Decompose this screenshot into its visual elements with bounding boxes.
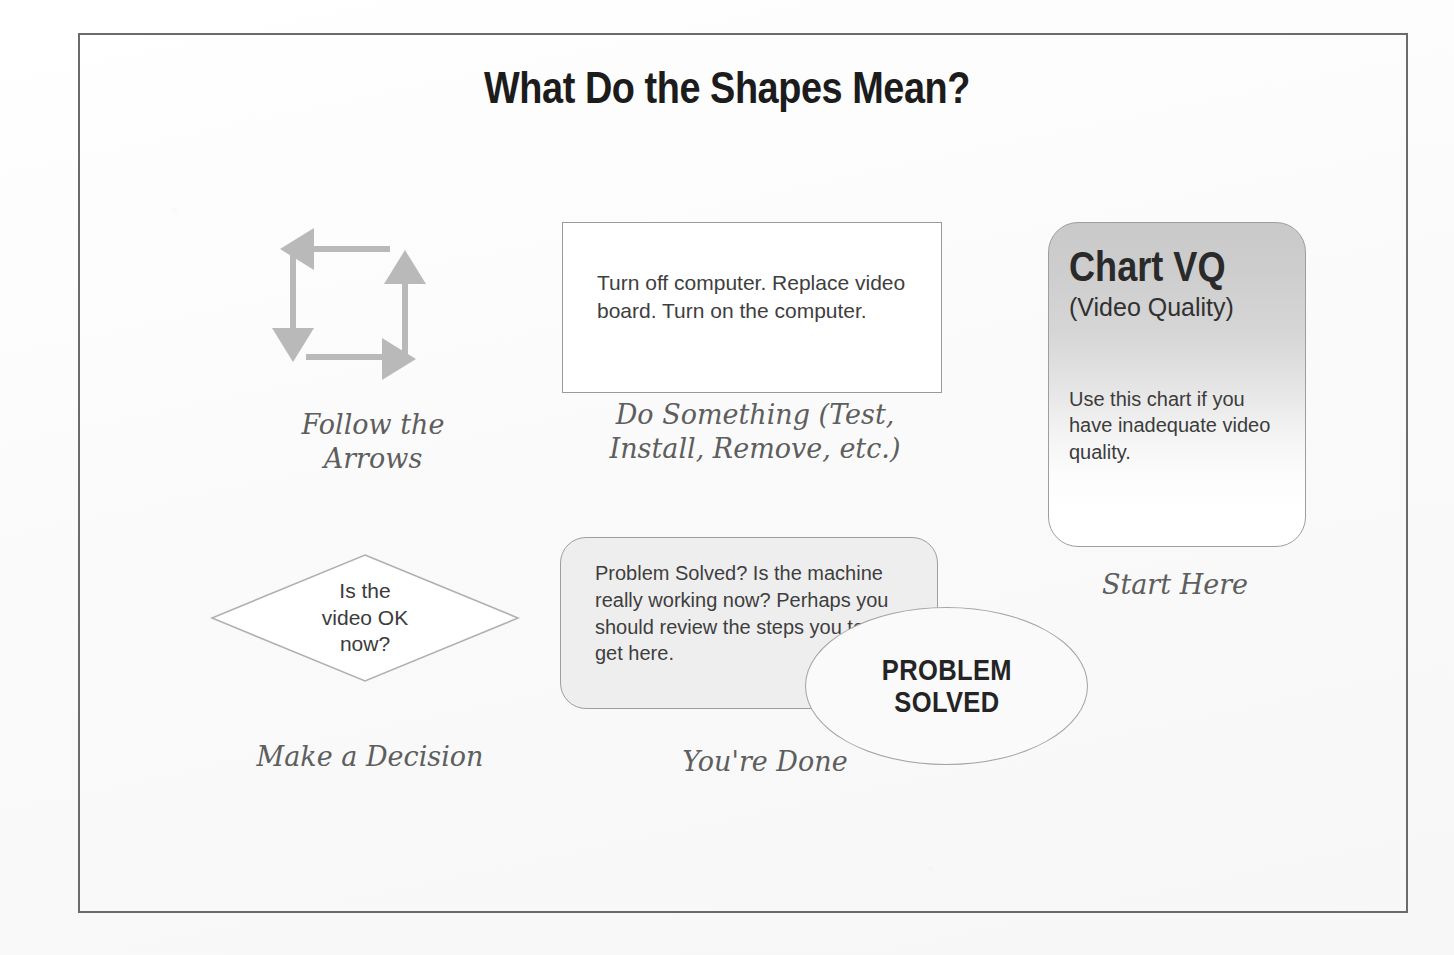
problem-solved-label: PROBLEM SOLVED	[881, 654, 1011, 719]
caption-make-a-decision: Make a Decision	[180, 740, 560, 774]
caption-follow-the-arrows: Follow the Arrows	[228, 408, 518, 476]
chart-card-title: Chart VQ	[1069, 245, 1254, 288]
arrow-right-icon	[306, 338, 416, 380]
process-shape: Turn off computer. Replace video board. …	[562, 222, 942, 393]
caption-start-here: Start Here	[1030, 568, 1320, 602]
arrow-up-icon	[384, 250, 426, 358]
page-title: What Do the Shapes Mean?	[102, 63, 1352, 113]
arrow-left-icon	[280, 228, 390, 270]
process-shape-text: Turn off computer. Replace video board. …	[597, 269, 917, 325]
problem-solved-ellipse: PROBLEM SOLVED	[805, 607, 1088, 765]
chart-reference-card: Chart VQ (Video Quality) Use this chart …	[1048, 222, 1306, 547]
chart-card-subtitle: (Video Quality)	[1069, 295, 1299, 320]
arrow-down-icon	[272, 252, 314, 362]
caption-do-something: Do Something (Test, Install, Remove, etc…	[530, 398, 980, 466]
chart-card-body-text: Use this chart if you have inadequate vi…	[1069, 386, 1284, 465]
four-arrow-cycle-icon	[268, 222, 448, 382]
decision-shape	[210, 553, 520, 683]
